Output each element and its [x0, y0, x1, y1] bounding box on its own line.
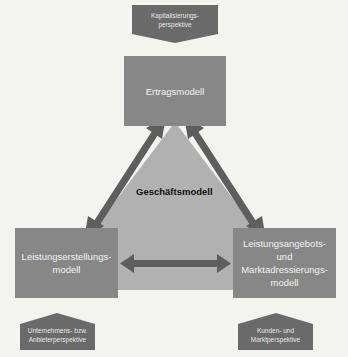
left-model-line1: Leistungserstellungs- — [22, 250, 112, 263]
left-perspective-line1: Unternehmens- bzw. — [28, 326, 88, 335]
top-perspective-line2: perspektive — [158, 20, 191, 29]
top-perspective-line1: Kapitalisierungs- — [151, 11, 199, 20]
leistungsangebotsmodell-box: Leistungsangebots- und Marktadressierung… — [233, 228, 336, 298]
ertragsmodell-label: Ertragsmodell — [146, 85, 205, 98]
left-model-line2: modell — [53, 263, 81, 276]
diagram-canvas — [0, 0, 348, 357]
right-model-line2: und — [277, 250, 293, 263]
leistungserstellungsmodell-box: Leistungserstellungs- modell — [15, 228, 118, 298]
ertragsmodell-box: Ertragsmodell — [124, 56, 226, 126]
right-perspective-line2: Marktperspektive — [251, 335, 301, 344]
right-model-line4: modell — [271, 276, 299, 289]
right-model-line1: Leistungsangebots- — [243, 237, 326, 250]
geschaeftsmodell-label: Geschäftsmodell — [136, 186, 213, 197]
left-perspective-line2: Anbieterperspektive — [29, 335, 86, 344]
right-perspective-line1: Kunden- und — [257, 326, 294, 335]
kapitalisierungsperspektive-label: Kapitalisierungs- perspektive — [132, 8, 218, 32]
right-model-line3: Marktadressierungs- — [241, 263, 328, 276]
marktperspektive-label: Kunden- und Marktperspektive — [238, 322, 313, 348]
anbieterperspektive-label: Unternehmens- bzw. Anbieterperspektive — [20, 322, 95, 348]
